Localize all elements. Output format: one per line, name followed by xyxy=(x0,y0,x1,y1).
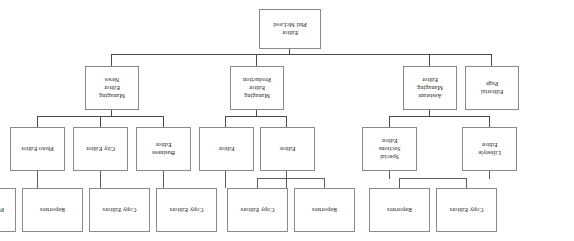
connector-vertical xyxy=(256,55,257,66)
node-reporters-1: Reporters xyxy=(369,188,430,232)
node-copy-editors-1: Copy Editors xyxy=(436,188,497,232)
connector-vertical xyxy=(489,171,490,179)
node-label: Reporters xyxy=(387,206,412,214)
connector-vertical xyxy=(37,117,38,127)
connector-horizontal xyxy=(399,178,467,179)
connector-horizontal xyxy=(257,178,325,179)
node-editor-production-2: Editor xyxy=(199,127,254,171)
node-label: Managing Editor News xyxy=(99,76,125,101)
connector-vertical xyxy=(163,171,164,188)
node-reporters-3: Reporters xyxy=(22,188,83,232)
connector-bus xyxy=(111,54,492,55)
node-editor-phil-mcleod: Editor Phil McLeod xyxy=(259,9,321,49)
node-managing-editor-news: Managing Editor News xyxy=(85,66,139,110)
connector-vertical xyxy=(257,179,258,188)
node-label: City Editor xyxy=(86,145,115,153)
org-chart: Copy Editors Reporters Reporters Copy Ed… xyxy=(0,0,574,241)
node-label: Copy Editors xyxy=(102,206,136,214)
node-label: Photographers xyxy=(0,206,4,214)
connector-vertical xyxy=(289,49,290,55)
connector-vertical xyxy=(429,110,430,117)
connector-vertical xyxy=(389,171,390,179)
node-copy-editors-3: Copy Editors xyxy=(156,188,217,232)
node-special-sections-editor: Special Sections Editor xyxy=(362,127,417,171)
node-reporters-2: Reporters xyxy=(294,188,355,232)
node-editorial-page: Editorial Page xyxy=(465,66,519,110)
connector-vertical xyxy=(163,117,164,127)
node-photographers-1: Photographers xyxy=(0,188,16,232)
node-editor-production-1: Editor xyxy=(260,127,315,171)
connector-vertical xyxy=(286,117,287,127)
node-label: Copy Editors xyxy=(449,206,483,214)
connector-vertical xyxy=(389,117,390,127)
connector-horizontal xyxy=(37,116,164,117)
connector-vertical xyxy=(399,179,400,188)
node-copy-editors-2: Copy Editors xyxy=(227,188,288,232)
node-photo-editor: Photo Editor xyxy=(10,127,65,171)
node-label: Editor Phil McLeod xyxy=(273,21,307,37)
node-label: Photo Editor xyxy=(21,145,54,153)
connector-vertical xyxy=(489,117,490,127)
node-label: Assistant Managing Editor xyxy=(417,76,443,101)
node-label: Reporters xyxy=(312,206,337,214)
connector-vertical xyxy=(225,171,226,188)
node-label: Editorial Page xyxy=(481,80,504,96)
connector-vertical xyxy=(225,117,226,127)
connector-vertical xyxy=(100,117,101,127)
connector-vertical xyxy=(100,171,101,188)
node-label: Managing Editor Production xyxy=(243,76,271,101)
connector-vertical xyxy=(466,179,467,188)
connector-vertical xyxy=(286,171,287,188)
connector-horizontal xyxy=(389,116,490,117)
node-label: Lifestyle Editor xyxy=(478,141,501,157)
connector-vertical xyxy=(111,55,112,66)
node-business-editor: Business Editor xyxy=(136,127,191,171)
node-assistant-managing-editor: Assistant Managing Editor xyxy=(403,66,457,110)
node-label: Copy Editors xyxy=(240,206,274,214)
node-label: Copy Editors xyxy=(169,206,203,214)
connector-vertical xyxy=(429,55,430,66)
node-city-editor: City Editor xyxy=(73,127,128,171)
connector-vertical xyxy=(324,179,325,188)
connector-vertical xyxy=(111,110,112,117)
node-label: Business Editor xyxy=(152,141,175,157)
connector-vertical xyxy=(491,55,492,66)
node-label: Special Sections Editor xyxy=(379,137,401,162)
node-lifestyle-editor: Lifestyle Editor xyxy=(462,127,517,171)
node-label: Editor xyxy=(279,145,295,153)
node-managing-editor-production: Managing Editor Production xyxy=(230,66,284,110)
node-label: Editor xyxy=(218,145,234,153)
connector-vertical xyxy=(256,110,257,117)
connector-vertical xyxy=(37,171,38,188)
node-label: Reporters xyxy=(40,206,65,214)
node-copy-editors-4: Copy Editors xyxy=(89,188,150,232)
